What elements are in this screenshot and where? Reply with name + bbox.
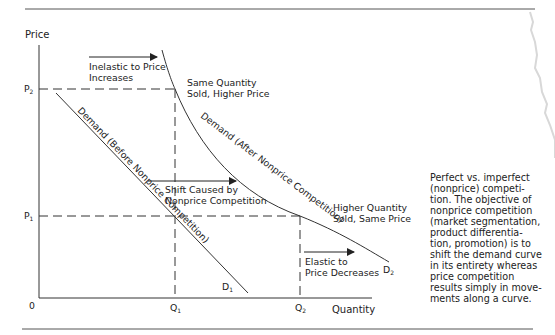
shift-annotation: Shift Caused by Nonprice Competition <box>165 184 267 206</box>
x-axis-label: Quantity <box>332 304 375 315</box>
higher-quantity-annotation: Higher Quantity Sold, Same Price <box>333 202 411 224</box>
d1-end-label: D1 <box>222 281 233 293</box>
origin-label: 0 <box>29 300 35 311</box>
same-quantity-annotation: Same Quantity Sold, Higher Price <box>187 77 270 99</box>
d2-end-label: D2 <box>383 264 394 276</box>
q1-label: Q1 <box>170 302 181 314</box>
inelastic-annotation: Inelastic to Price Increases <box>89 61 169 83</box>
p1-label: P1 <box>24 210 34 222</box>
d2-curve-label: Demand (After Nonprice Competition) <box>199 110 347 225</box>
elastic-annotation: Elastic to Price Decreases <box>305 256 379 278</box>
figure-caption: Perfect vs. imperfect (nonprice) competi… <box>430 172 548 304</box>
torn-edge-shadow <box>530 12 555 158</box>
q2-label: Q2 <box>295 302 306 314</box>
y-axis-label: Price <box>25 29 49 40</box>
d1-curve-label: Demand (Before Nonprice Competition) <box>76 105 212 245</box>
p2-label: P2 <box>24 83 34 95</box>
